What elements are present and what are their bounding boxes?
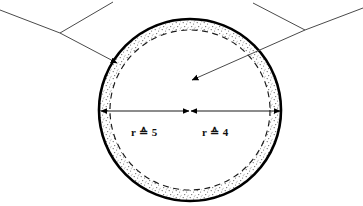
diagram-svg	[0, 0, 363, 206]
leader-right-vertical-branch	[253, 3, 305, 30]
leader-left-vertical-branch	[60, 2, 113, 33]
right-radius-label: r ≙ 4	[202, 126, 229, 139]
inner-core-region	[111, 31, 270, 190]
leader-to-shell	[60, 33, 117, 63]
figure-canvas: r ≙ 5 r ≙ 4	[0, 0, 363, 206]
leader-right-upper-branch	[305, 8, 363, 30]
leader-left-upper-branch	[0, 10, 60, 33]
left-radius-label: r ≙ 5	[131, 126, 158, 139]
